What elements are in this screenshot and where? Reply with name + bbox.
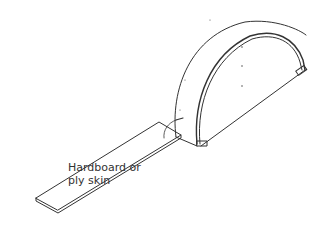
callout-line-1: Hardboard or bbox=[68, 161, 141, 174]
diagram-drawing bbox=[0, 0, 315, 237]
callout-line-2: ply skin bbox=[68, 174, 141, 187]
arrow-head bbox=[176, 118, 183, 120]
arch-front-edge-inner bbox=[199, 37, 302, 144]
arch-base-line bbox=[201, 70, 305, 146]
arch-foot-right bbox=[296, 65, 307, 75]
arch-left-base bbox=[176, 137, 197, 146]
callout-label: Hardboard or ply skin bbox=[68, 161, 141, 187]
arch-front-edge bbox=[196, 33, 305, 144]
